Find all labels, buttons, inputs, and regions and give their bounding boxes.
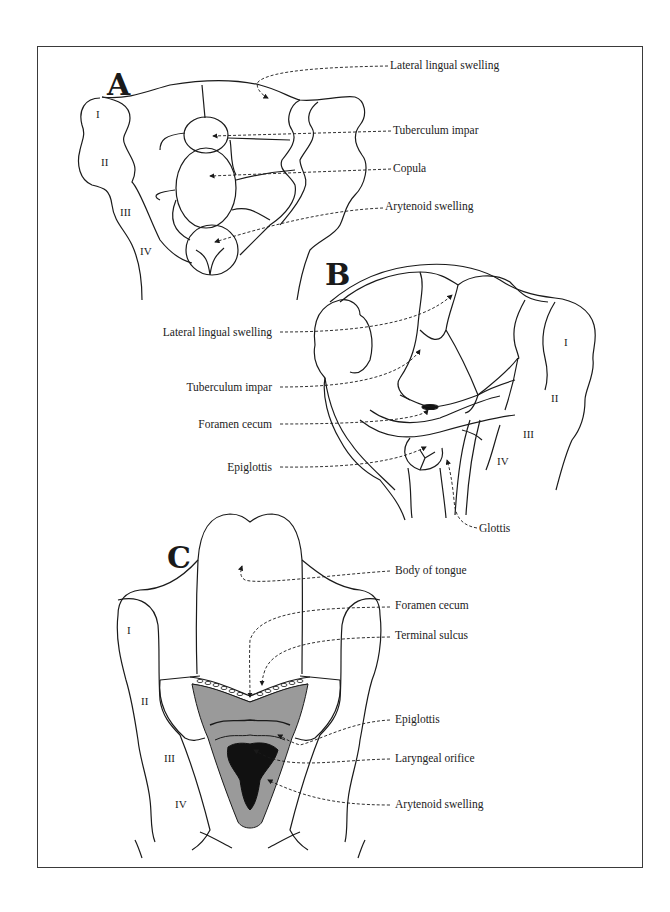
label-a-arytenoid-swelling: Arytenoid swelling (385, 201, 473, 213)
label-b-epiglottis: Epiglottis (227, 462, 272, 474)
panel-a-drawing (79, 80, 366, 300)
label-b-tuberculum-impar: Tuberculum impar (187, 382, 273, 394)
label-c-foramen-cecum: Foramen cecum (395, 600, 469, 612)
arch-label-b-ii: II (551, 393, 558, 404)
arch-label-c-i: I (127, 625, 131, 636)
label-b-glottis: Glottis (479, 523, 510, 535)
arch-label-b-iii: III (523, 429, 534, 440)
embryonic-tongue-drawings (0, 0, 670, 912)
arch-label-a-iv: IV (140, 246, 152, 257)
arch-label-b-iv: IV (497, 456, 509, 467)
label-a-copula: Copula (393, 163, 426, 175)
label-c-arytenoid-swelling: Arytenoid swelling (395, 799, 483, 811)
label-c-terminal-sulcus: Terminal sulcus (395, 630, 468, 642)
arch-label-a-iii: III (120, 207, 131, 218)
label-a-lateral-lingual-swelling: Lateral lingual swelling (390, 60, 499, 72)
arch-label-c-ii: II (141, 696, 148, 707)
panel-letter-b: B (325, 260, 350, 290)
label-c-epiglottis: Epiglottis (395, 714, 440, 726)
arch-label-b-i: I (564, 337, 568, 348)
arch-label-a-ii: II (101, 157, 108, 168)
panel-letter-a: A (107, 70, 130, 100)
panel-letter-c: C (167, 543, 191, 573)
label-a-tuberculum-impar: Tuberculum impar (393, 125, 479, 137)
label-b-lateral-lingual-swelling: Lateral lingual swelling (163, 327, 272, 339)
arch-label-c-iv: IV (175, 799, 187, 810)
arch-label-a-i: I (96, 109, 100, 120)
label-b-foramen-cecum: Foramen cecum (198, 419, 272, 431)
arch-label-c-iii: III (164, 753, 175, 764)
label-c-laryngeal-orifice: Laryngeal orifice (395, 753, 475, 765)
label-c-body-of-tongue: Body of tongue (395, 565, 467, 577)
